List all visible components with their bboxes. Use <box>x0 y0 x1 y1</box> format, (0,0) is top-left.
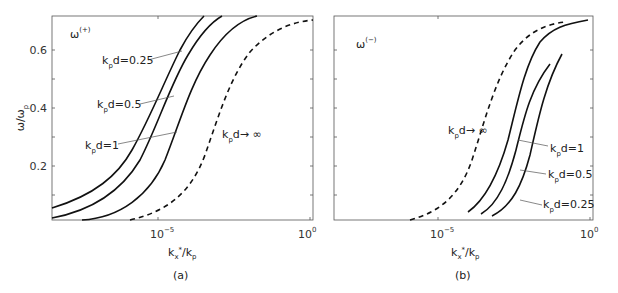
xlabel-a: kx*/kp <box>168 246 197 261</box>
svg-text:ω/ωp: ω/ωp <box>14 104 30 131</box>
curves-b <box>410 20 588 220</box>
curves-a <box>52 16 313 220</box>
xtick-1e0-b: 100 <box>580 226 598 241</box>
caption-b: (b) <box>455 269 471 282</box>
curve-kpd-0.25-a <box>52 16 204 208</box>
axes-frame-b <box>334 16 593 220</box>
ticks-b <box>334 16 593 220</box>
anno-kpdinf-b: kpd→ ∞ <box>448 124 488 140</box>
figure: 0.6 0.4 0.2 ω/ωp 10−5 100 kx*/kp ω(+) kp… <box>0 0 618 293</box>
caption-a: (a) <box>173 269 188 282</box>
xlabel-b: kx*/kp <box>451 246 480 261</box>
anno-kpd-0.5-b: kpd=0.5 <box>548 168 593 184</box>
leaders-b <box>518 140 548 205</box>
omega-plus-label: ω(+) <box>70 26 91 41</box>
xtick-1e-5-a: 10−5 <box>150 226 174 241</box>
ylabel-a: ω/ωp <box>14 104 30 131</box>
anno-kpdinf-a: kpd→ ∞ <box>222 128 262 144</box>
curve-kpd-0.5-a <box>52 16 222 218</box>
anno-kpd-0.25-b: kpd=0.25 <box>543 198 595 214</box>
panel-b: 10−5 100 kx*/kp ω(−) kpd→ ∞ kpd=1 kpd=0.… <box>334 16 598 282</box>
ytick-0.6: 0.6 <box>30 44 48 57</box>
anno-kpd-1-a: kpd=1 <box>85 139 119 155</box>
anno-kpd-0.5-a: kpd=0.5 <box>97 98 142 114</box>
ytick-0.2: 0.2 <box>30 160 48 173</box>
curve-kpd-0.25-b <box>492 54 562 216</box>
anno-kpd-1-b: kpd=1 <box>550 142 584 158</box>
omega-minus-label: ω(−) <box>356 36 377 51</box>
xtick-1e-5-b: 10−5 <box>430 226 454 241</box>
xtick-1e0-a: 100 <box>298 226 316 241</box>
panel-a: 0.6 0.4 0.2 ω/ωp 10−5 100 kx*/kp ω(+) kp… <box>14 16 316 282</box>
ytick-0.4: 0.4 <box>30 102 48 115</box>
curve-kpd-1-a <box>82 16 257 220</box>
anno-kpd-0.25-a: kpd=0.25 <box>102 54 154 70</box>
